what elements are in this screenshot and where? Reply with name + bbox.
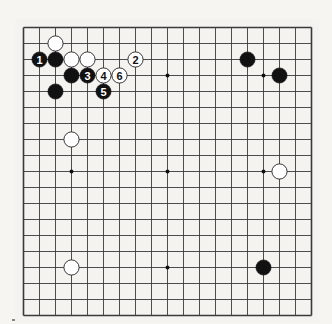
white-stone	[80, 52, 95, 67]
white-stone-icon	[64, 52, 79, 67]
move-number-label: 1	[36, 54, 42, 66]
black-stone-5: 5	[96, 84, 111, 99]
white-stone-icon	[272, 164, 287, 179]
black-stone-icon	[272, 68, 287, 83]
black-stone-icon	[48, 52, 63, 67]
move-number-label: 2	[132, 54, 138, 66]
black-stone	[272, 68, 287, 83]
white-stone-2: 2	[128, 52, 143, 67]
go-board: 123465	[0, 0, 332, 324]
black-stone	[48, 52, 63, 67]
white-stone	[48, 36, 63, 51]
move-number-label: 3	[84, 70, 90, 82]
black-stone-icon	[256, 260, 271, 275]
star-point	[166, 266, 170, 270]
white-stone	[64, 260, 79, 275]
star-point	[262, 170, 266, 174]
move-number-label: 4	[100, 70, 107, 82]
black-stone-icon	[64, 68, 79, 83]
black-stone	[48, 84, 63, 99]
black-stone-icon	[48, 84, 63, 99]
scan-artifact-mark	[12, 319, 15, 321]
white-stone	[64, 132, 79, 147]
black-stone-1: 1	[32, 52, 47, 67]
star-point	[166, 74, 170, 78]
star-point	[70, 170, 74, 174]
star-point	[166, 170, 170, 174]
move-number-label: 5	[100, 86, 106, 98]
move-number-label: 6	[116, 70, 122, 82]
black-stone	[240, 52, 255, 67]
black-stone	[64, 68, 79, 83]
white-stone	[272, 164, 287, 179]
white-stone-icon	[48, 36, 63, 51]
white-stone-6: 6	[112, 68, 127, 83]
white-stone	[64, 52, 79, 67]
white-stone-icon	[80, 52, 95, 67]
black-stone-icon	[240, 52, 255, 67]
black-stone-3: 3	[80, 68, 95, 83]
white-stone-4: 4	[96, 68, 111, 83]
star-point	[262, 74, 266, 78]
black-stone	[256, 260, 271, 275]
white-stone-icon	[64, 260, 79, 275]
go-board-diagram: 123465	[0, 0, 332, 324]
white-stone-icon	[64, 132, 79, 147]
